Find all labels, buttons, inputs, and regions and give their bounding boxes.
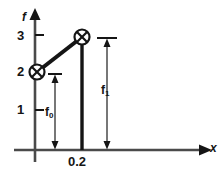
plot-area (0, 0, 224, 178)
dimension-f1-arrowhead-up (104, 39, 111, 48)
dimension-label-f0: f0 (45, 106, 53, 118)
dimension-f0-arrowhead-up (52, 75, 59, 84)
dimension-f1-arrowhead-down (104, 141, 111, 150)
data-point-marker-0 (30, 65, 45, 80)
x-axis-tick-label-02: 0.2 (68, 155, 86, 168)
y-axis-arrowhead (30, 8, 41, 20)
y-axis-label: f (22, 11, 26, 23)
figure-canvas: 3 2 1 0.2 f x f0 f1 (0, 0, 224, 178)
dimension-label-f1: f1 (101, 84, 109, 96)
dimension-label-f0-subscript: 0 (49, 111, 53, 120)
dimension-f0-arrowhead-down (52, 141, 59, 150)
y-axis-tick-label-2: 2 (17, 65, 24, 78)
data-point-marker-1 (75, 30, 90, 45)
y-axis-tick-label-1: 1 (17, 103, 24, 116)
dimension-label-f1-subscript: 1 (105, 89, 109, 98)
y-axis-tick-label-3: 3 (17, 29, 24, 42)
x-axis-label: x (210, 142, 217, 154)
